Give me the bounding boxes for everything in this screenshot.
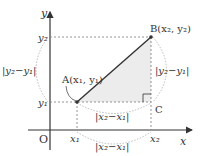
tick-y1: y₁ xyxy=(37,97,48,108)
tick-x2: x₂ xyxy=(150,133,160,144)
origin-label: O xyxy=(39,133,48,146)
label-point-a: A(x₁, y₁) xyxy=(61,74,103,85)
y-axis-label: y xyxy=(40,7,48,20)
tick-x1: x₁ xyxy=(70,133,80,144)
coordinate-diagram: y x O y₂ y₁ x₁ x₂ A(x₁, y₁) B(x₂, y₂) C … xyxy=(0,0,201,156)
arc-a-leader xyxy=(66,86,76,101)
label-point-b: B(x₂, y₂) xyxy=(150,23,191,34)
distance-horizontal-triangle: |x₂−x₁| xyxy=(95,111,129,123)
distance-vertical-right: |y₂−y₁| xyxy=(155,65,189,77)
point-a xyxy=(75,100,79,104)
diagram-canvas: y x O y₂ y₁ x₁ x₂ A(x₁, y₁) B(x₂, y₂) C … xyxy=(0,0,201,156)
arc-left-vertical xyxy=(36,37,48,102)
distance-vertical-left: |y₂−y₁| xyxy=(2,65,36,77)
x-axis-label: x xyxy=(180,135,187,148)
point-b xyxy=(149,35,153,39)
distance-horizontal-below: |x₂−x₁| xyxy=(95,141,129,153)
label-point-c: C xyxy=(155,104,163,115)
tick-y2: y₂ xyxy=(37,32,48,43)
